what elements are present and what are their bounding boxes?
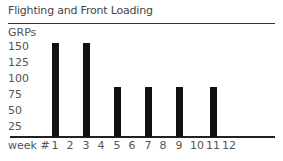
bar-week-1 — [52, 43, 59, 137]
x-axis-line — [10, 136, 275, 138]
y-tick-label: 125 — [8, 56, 38, 69]
bar-week-11 — [210, 87, 217, 137]
x-tick-label: 12 — [222, 139, 236, 152]
y-tick-label: 50 — [8, 104, 38, 117]
bar-week-7 — [145, 87, 152, 137]
x-tick-label: 7 — [141, 139, 155, 152]
x-tick-label: 8 — [156, 139, 170, 152]
x-tick-label: 2 — [63, 139, 77, 152]
chart-title: Flighting and Front Loading — [8, 4, 153, 17]
x-tick-label: 9 — [172, 139, 186, 152]
title-rule — [8, 23, 275, 24]
y-tick-label: 75 — [8, 88, 38, 101]
bar-week-5 — [114, 87, 121, 137]
bar-week-3 — [83, 43, 90, 137]
x-tick-label: 1 — [48, 139, 62, 152]
x-tick-label: 10 — [190, 139, 204, 152]
x-axis-label: week # — [8, 139, 50, 152]
y-axis-label: GRPs — [8, 26, 36, 39]
y-tick-label: 100 — [8, 72, 38, 85]
x-tick-label: 6 — [125, 139, 139, 152]
x-tick-label: 5 — [110, 139, 124, 152]
bar-week-9 — [176, 87, 183, 137]
x-tick-label: 11 — [206, 139, 220, 152]
x-tick-label: 3 — [79, 139, 93, 152]
x-tick-label: 4 — [94, 139, 108, 152]
y-tick-label: 25 — [8, 120, 38, 133]
y-tick-label: 150 — [8, 40, 38, 53]
